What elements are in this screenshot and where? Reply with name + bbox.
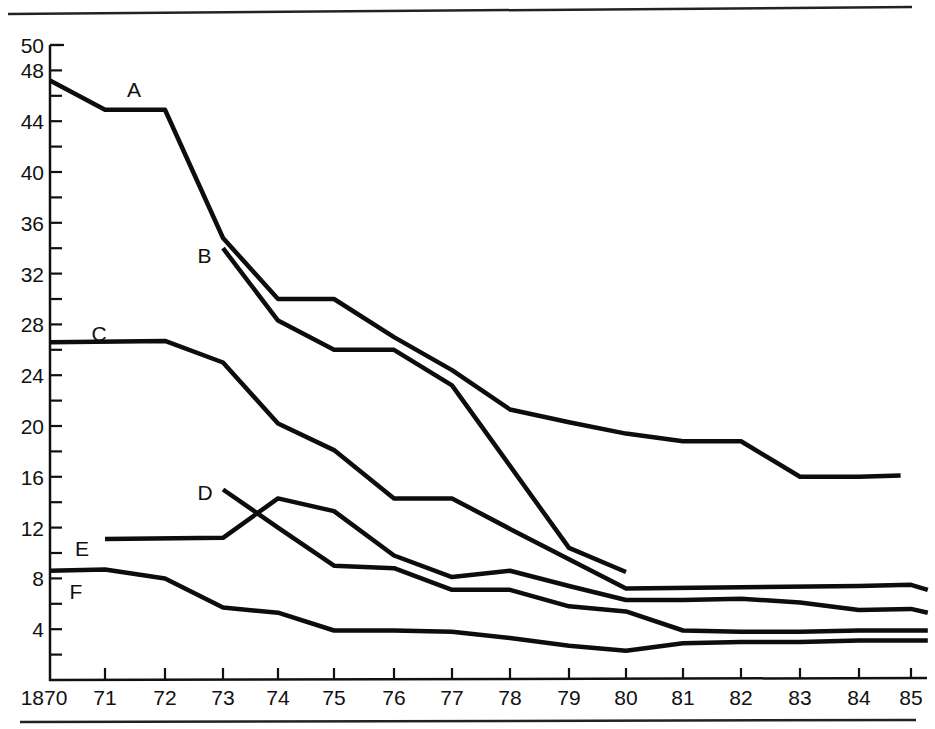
axes: 4812162024283236404448501870717273747576… — [21, 34, 927, 709]
y-tick-label: 16 — [21, 466, 44, 489]
y-tick-label: 44 — [21, 110, 45, 133]
series-layer — [50, 81, 928, 651]
x-tick-label: 74 — [266, 686, 290, 709]
y-tick-label: 40 — [21, 161, 44, 184]
x-tick-label: 71 — [93, 686, 116, 709]
bottom-rule — [20, 720, 916, 722]
x-axis — [49, 678, 927, 680]
series-label-f: F — [70, 580, 83, 603]
x-tick-label: 73 — [211, 686, 234, 709]
figure-title: FIGURE — [431, 0, 509, 2]
y-tick-label: 8 — [32, 567, 44, 590]
x-tick-label: 79 — [557, 686, 580, 709]
top-rule — [8, 7, 912, 14]
y-tick-label: 24 — [21, 364, 45, 387]
x-tick-label: 80 — [614, 686, 637, 709]
y-tick-label: 20 — [21, 415, 44, 438]
y-tick-label: 48 — [21, 59, 44, 82]
y-tick-label: 28 — [21, 313, 44, 336]
line-chart: FIGURE 481216202428323640444850187071727… — [0, 0, 935, 729]
series-label-b: B — [198, 244, 212, 267]
x-tick-label: 83 — [788, 686, 811, 709]
y-tick-label: 50 — [21, 34, 44, 57]
x-tick-label: 72 — [153, 686, 176, 709]
y-tick-label: 4 — [32, 618, 44, 641]
y-tick-label: 12 — [21, 517, 44, 540]
y-tick-label: 32 — [21, 263, 44, 286]
x-tick-label: 82 — [729, 686, 752, 709]
series-line-f — [50, 570, 928, 651]
x-tick-label: 81 — [671, 686, 694, 709]
y-tick-label: 36 — [21, 212, 44, 235]
x-tick-label: 76 — [382, 686, 405, 709]
chart-canvas: FIGURE 481216202428323640444850187071727… — [0, 0, 935, 729]
x-tick-label: 85 — [899, 686, 922, 709]
x-tick-label: 78 — [498, 686, 521, 709]
series-line-e — [105, 498, 928, 612]
x-tick-label: 84 — [847, 686, 871, 709]
series-label-a: A — [127, 78, 141, 101]
x-tick-label: 75 — [322, 686, 345, 709]
x-tick-label: 1870 — [21, 686, 68, 709]
series-label-e: E — [75, 537, 89, 560]
series-label-c: C — [92, 322, 107, 345]
x-tick-label: 77 — [440, 686, 463, 709]
series-label-d: D — [198, 481, 213, 504]
series-line-c — [50, 341, 928, 590]
